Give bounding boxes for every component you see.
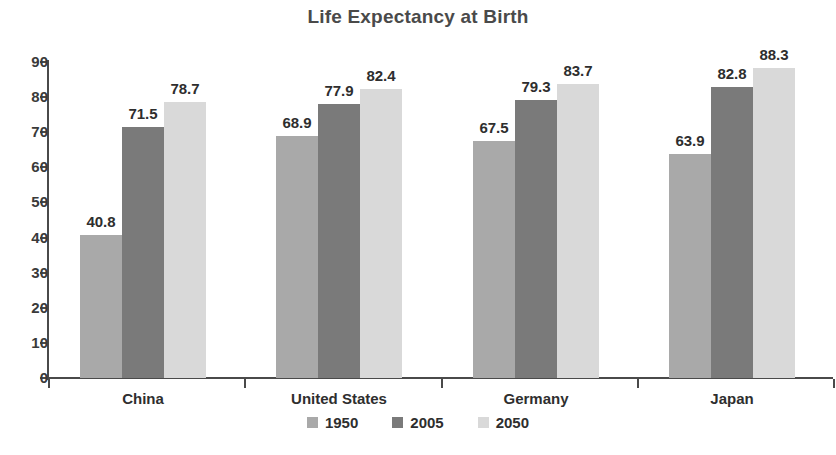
legend-label: 2050: [496, 415, 529, 430]
legend-label: 2005: [410, 415, 443, 430]
legend-label: 1950: [325, 415, 358, 430]
y-axis-tick-label: 80: [12, 88, 48, 105]
bar-china-2050: [164, 102, 206, 378]
bar-china-1950: [80, 235, 122, 378]
bar-united-states-2005: [318, 104, 360, 378]
y-axis-tick-label: 10: [12, 334, 48, 351]
chart-container: Life Expectancy at Birth 010203040506070…: [0, 0, 836, 455]
y-axis-tick-label: 40: [12, 229, 48, 246]
category-tick: [833, 379, 835, 388]
bar-germany-1950: [473, 141, 515, 378]
y-axis-line: [47, 60, 49, 380]
bar-germany-2005: [515, 100, 557, 378]
legend-swatch-icon: [392, 417, 403, 428]
y-axis-tick-label: 0: [12, 369, 48, 386]
y-axis-tick-label: 20: [12, 299, 48, 316]
category-label-united-states: United States: [259, 390, 419, 407]
legend-swatch-icon: [307, 417, 318, 428]
bar-japan-1950: [669, 154, 711, 378]
legend-swatch-icon: [478, 417, 489, 428]
category-tick: [441, 379, 443, 388]
footer-caption: [28, 446, 818, 455]
category-tick: [48, 379, 50, 388]
category-label-japan: Japan: [652, 390, 812, 407]
y-axis-tick-label: 30: [12, 264, 48, 281]
y-axis-tick-label: 70: [12, 123, 48, 140]
chart-title: Life Expectancy at Birth: [0, 6, 836, 28]
category-label-china: China: [63, 390, 223, 407]
y-axis-tick-label: 90: [12, 53, 48, 70]
category-label-germany: Germany: [456, 390, 616, 407]
bar-value-label: 88.3: [744, 46, 804, 63]
bar-japan-2050: [753, 68, 795, 378]
legend-item-2050[interactable]: 2050: [478, 415, 529, 430]
bar-japan-2005: [711, 87, 753, 378]
bar-value-label: 78.7: [155, 80, 215, 97]
bar-united-states-2050: [360, 89, 402, 378]
y-axis-tick-label: 50: [12, 193, 48, 210]
y-axis-tick-label: 60: [12, 158, 48, 175]
category-tick: [244, 379, 246, 388]
bar-germany-2050: [557, 84, 599, 378]
legend-item-2005[interactable]: 2005: [392, 415, 443, 430]
bar-united-states-1950: [276, 136, 318, 378]
bar-value-label: 82.4: [351, 67, 411, 84]
bar-china-2005: [122, 127, 164, 378]
chart-legend: 195020052050: [0, 415, 836, 430]
category-tick: [637, 379, 639, 388]
bar-value-label: 83.7: [548, 62, 608, 79]
legend-item-1950[interactable]: 1950: [307, 415, 358, 430]
